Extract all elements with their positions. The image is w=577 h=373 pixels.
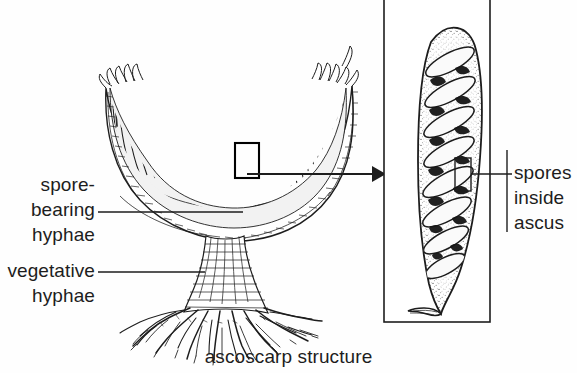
- label-spores-inside-line1: spores: [514, 160, 572, 185]
- label-vegetative-line1: vegetative: [7, 258, 95, 283]
- label-spores-inside-ascus: spores inside ascus: [514, 160, 572, 235]
- label-spore-bearing-hyphae: spore- bearing hyphae: [31, 172, 95, 247]
- label-vegetative-line2: hyphae: [7, 283, 95, 308]
- label-spore-bearing-line2: bearing: [31, 197, 95, 222]
- label-spores-inside-line3: ascus: [514, 210, 572, 235]
- label-vegetative-hyphae: vegetative hyphae: [7, 258, 95, 308]
- label-spores-inside-line2: inside: [514, 185, 572, 210]
- inset-panel: [384, 0, 490, 322]
- figure-caption: ascoscarp structure: [0, 344, 577, 369]
- label-spore-bearing-line3: hyphae: [31, 222, 95, 247]
- label-spore-bearing-line1: spore-: [31, 172, 95, 197]
